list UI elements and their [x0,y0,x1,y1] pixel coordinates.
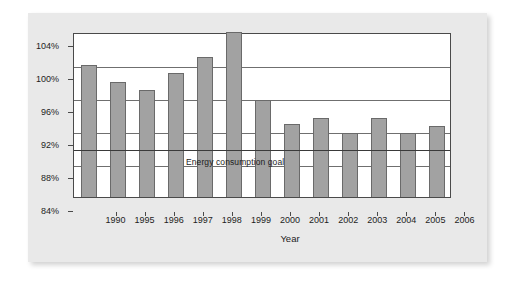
bar-2004 [371,118,387,197]
y-axis: 84%88%92%96%100%104% [28,26,73,275]
x-tick-label: 1998 [222,215,242,225]
y-tick-label: 92% [41,140,59,150]
x-tick-label: 1999 [251,215,271,225]
x-tick-label: 1990 [106,215,126,225]
bar-2001 [284,124,300,197]
x-tick-label: 2001 [309,215,329,225]
goal-annotation-label: Energy consumption goal [186,157,284,167]
x-tick-label: 2003 [367,215,387,225]
y-tick-label: 88% [41,173,59,183]
bar-2002 [313,118,329,197]
bar-2006 [429,126,445,197]
x-axis: 1990199519961997199819992000200120022003… [101,212,479,232]
bar-1999 [226,32,242,197]
x-tick-label: 1996 [164,215,184,225]
bars-layer [74,34,450,197]
plot-area: Energy consumption goal [73,33,451,198]
x-tick-label: 2006 [454,215,474,225]
x-axis-title: Year [101,233,479,244]
y-tick-label: 104% [36,41,59,51]
bar-1997 [168,73,184,197]
bar-1996 [139,90,155,197]
x-tick-label: 1995 [135,215,155,225]
y-tick-label: 84% [41,206,59,216]
bar-1995 [110,82,126,198]
y-tick-label: 100% [36,74,59,84]
bar-2005 [400,133,416,197]
x-tick-label: 2004 [396,215,416,225]
x-tick-label: 2002 [338,215,358,225]
bar-1990 [81,65,97,197]
bar-2003 [342,133,358,197]
bar-1998 [197,57,213,197]
chart-panel: 84%88%92%96%100%104% Energy consumption … [28,13,487,262]
y-tick-mark [68,211,73,212]
x-tick-label: 2005 [425,215,445,225]
bar-2000 [255,100,271,197]
x-tick-label: 2000 [280,215,300,225]
x-tick-label: 1997 [193,215,213,225]
y-tick-label: 96% [41,107,59,117]
goal-reference-line [74,150,450,151]
